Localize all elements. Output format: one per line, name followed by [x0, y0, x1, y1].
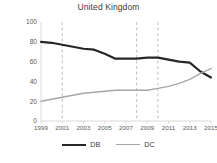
x-tick-label: 2015: [204, 124, 217, 131]
y-tick-label: 60: [30, 58, 38, 65]
y-tick-label: 40: [30, 78, 38, 85]
x-tick-label: 2001: [55, 124, 69, 131]
x-tick-label: 2013: [183, 124, 197, 131]
y-tick-label: 20: [30, 98, 38, 105]
series-line-db: [41, 42, 211, 78]
legend-item-dc[interactable]: DC: [116, 140, 154, 149]
data-series-lines: [41, 42, 211, 101]
legend-item-db[interactable]: DB: [62, 140, 100, 149]
x-tick-label: 1999: [34, 124, 48, 131]
chart-container: United Kingdom % of all occupational pen…: [0, 0, 217, 163]
x-tick-label: 2009: [140, 124, 154, 131]
legend-swatch-dc-icon: [116, 144, 140, 145]
x-axis-tick-labels: 199920012003200520072009201120132015: [34, 124, 217, 131]
series-line-dc: [41, 69, 211, 102]
axis-lines: [41, 22, 211, 121]
x-tick-label: 2011: [162, 124, 176, 131]
x-tick-label: 2003: [77, 124, 91, 131]
y-tick-label: 80: [30, 38, 38, 45]
legend-swatch-db-icon: [62, 144, 86, 146]
legend-label: DB: [90, 140, 100, 149]
x-tick-label: 2007: [119, 124, 133, 131]
x-tick-label: 2005: [98, 124, 112, 131]
legend-label: DC: [144, 140, 154, 149]
chart-legend: DBDC: [0, 140, 217, 149]
y-tick-label: 100: [26, 18, 37, 25]
plot-area: 020406080100 199920012003200520072009201…: [0, 0, 217, 140]
y-axis-tick-labels: 020406080100: [26, 18, 37, 124]
annotation-vertical-lines: [62, 22, 158, 121]
